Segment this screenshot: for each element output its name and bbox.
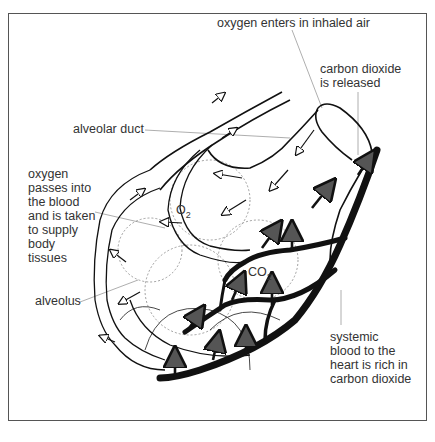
arrow-icon bbox=[262, 230, 275, 248]
leader-oxygen-enters bbox=[292, 30, 322, 108]
co2-base: CO bbox=[248, 265, 267, 279]
arrow-icon bbox=[272, 170, 288, 188]
arrow-icon bbox=[130, 191, 142, 200]
o2-subscript: 2 bbox=[186, 210, 191, 220]
label-oxygen-passes: oxygen passes into the blood and is take… bbox=[28, 167, 95, 265]
diagram-stage: oxygen enters in inhaled air carbon diox… bbox=[0, 0, 435, 442]
arrow-icon bbox=[312, 188, 328, 208]
arrow-icon bbox=[225, 200, 246, 213]
label-alveolar-duct: alveolar duct bbox=[73, 122, 144, 136]
arrow-icon bbox=[212, 95, 222, 103]
arrow-icon bbox=[122, 292, 140, 302]
label-co2-released: carbon dioxide is released bbox=[320, 62, 401, 90]
o2-base: O bbox=[176, 203, 186, 217]
leader-alveolar-duct bbox=[145, 130, 290, 138]
arrow-icon bbox=[218, 174, 242, 178]
leader-lines bbox=[80, 30, 358, 325]
leader-oxygen-passes bbox=[95, 212, 165, 228]
alveolar-duct-outline bbox=[150, 92, 372, 260]
arrow-icon bbox=[213, 342, 217, 360]
leader-alveolus bbox=[80, 280, 138, 302]
label-o2: O2 bbox=[176, 203, 191, 220]
arrow-icon bbox=[298, 130, 314, 152]
label-alveolus: alveolus bbox=[35, 294, 81, 308]
capillary-outline bbox=[94, 145, 250, 370]
label-oxygen-enters: oxygen enters in inhaled air bbox=[217, 16, 370, 30]
label-co2: CO2 bbox=[248, 265, 272, 282]
co2-subscript: 2 bbox=[267, 272, 272, 282]
label-systemic-blood: systemic blood to the heart is rich in c… bbox=[330, 330, 411, 386]
